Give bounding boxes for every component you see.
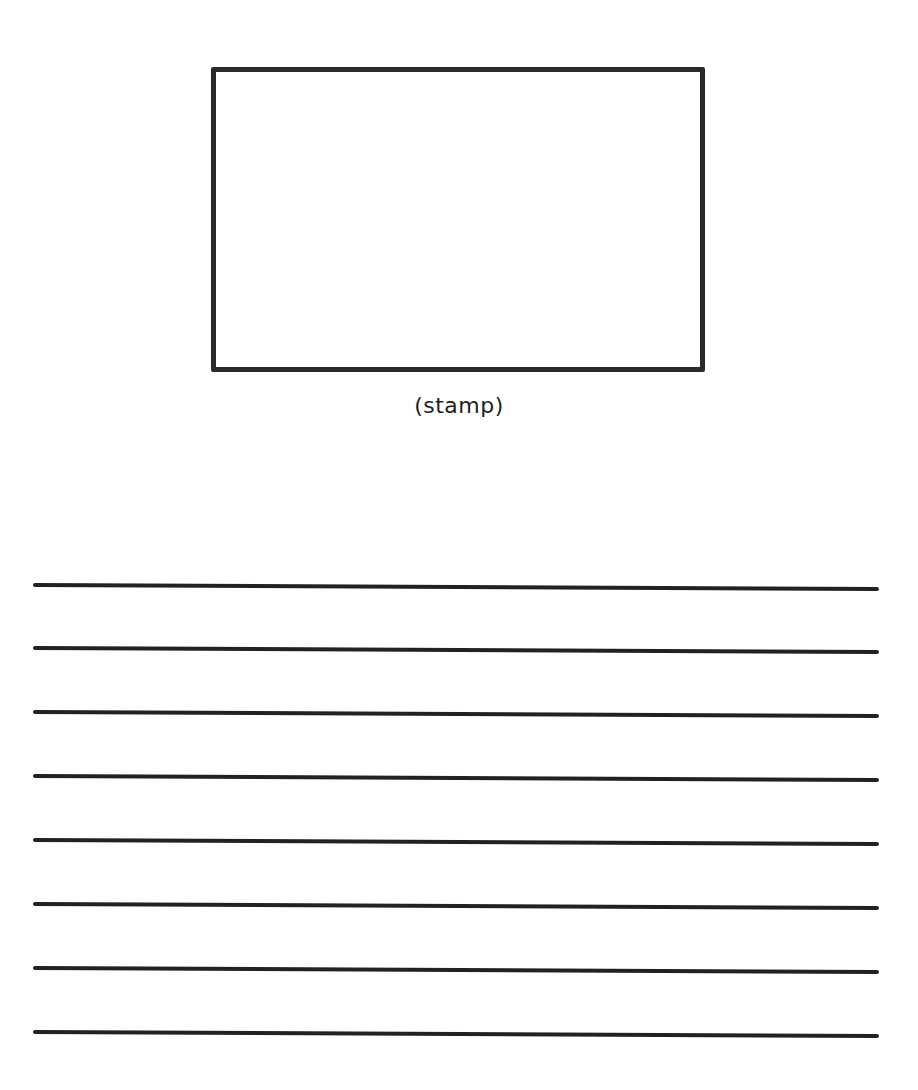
address-line <box>33 710 879 718</box>
address-line <box>33 646 879 654</box>
stamp-label: (stamp) <box>0 393 918 418</box>
address-line <box>33 583 879 591</box>
address-line <box>33 902 879 910</box>
stamp-box <box>211 67 705 372</box>
address-line <box>33 966 879 974</box>
address-line <box>33 838 879 846</box>
address-line <box>33 1030 879 1038</box>
address-line <box>33 774 879 782</box>
